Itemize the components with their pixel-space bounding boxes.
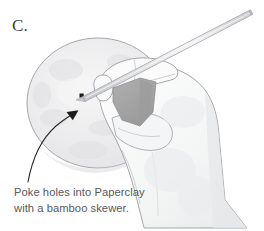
step-label: C. [12, 17, 28, 34]
caption-line-1: Poke holes into Paperclay [14, 185, 194, 201]
caption-line-2: with a bamboo skewer. [14, 201, 194, 217]
figure-step-c: C. Poke holes into Paperclay with a bamb… [0, 0, 264, 231]
figure-caption: Poke holes into Paperclay with a bamboo … [14, 185, 194, 216]
